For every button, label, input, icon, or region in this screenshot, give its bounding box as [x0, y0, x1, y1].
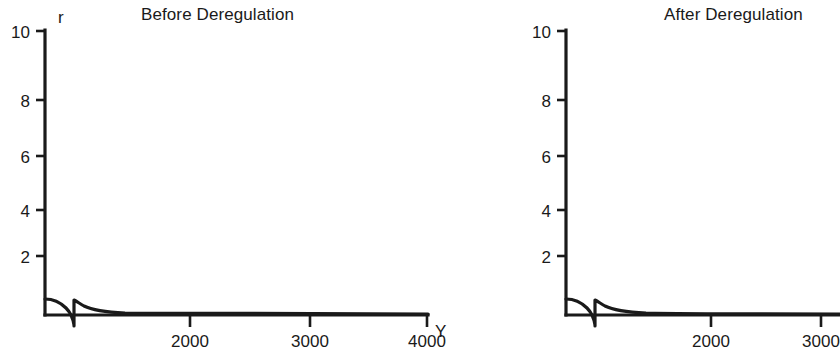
y-tick-label-8-after: 8	[542, 92, 551, 111]
y-tick-label-2-after: 2	[542, 248, 551, 267]
x-tick-label-3000-before: 3000	[291, 332, 329, 351]
chart-panel-after: After Deregulation 10 8 6 4 2 2000 3000	[470, 0, 840, 360]
y-tick-label-10-before: 10	[11, 23, 30, 42]
x-axis-label-Y: Y	[435, 322, 446, 342]
y-tick-label-8-before: 8	[21, 92, 30, 111]
y-tick-label-4-after: 4	[542, 202, 551, 221]
x-tick-label-3000-after: 3000	[802, 332, 840, 351]
x-tick-label-2000-before: 2000	[171, 332, 209, 351]
chart-panel-before: Before Deregulation 10 8 6 4 2 2000	[0, 0, 470, 360]
y-tick-label-2-before: 2	[21, 248, 30, 267]
y-tick-label-6-after: 6	[542, 148, 551, 167]
y-axis-label-r: r	[58, 8, 64, 28]
money-demand-curve-before	[45, 299, 428, 326]
y-tick-label-4-before: 4	[21, 202, 30, 221]
figure-canvas: Before Deregulation 10 8 6 4 2 2000	[0, 0, 840, 360]
plot-area-before: 10 8 6 4 2 2000 3000 4000	[0, 0, 470, 360]
y-tick-label-6-before: 6	[21, 148, 30, 167]
x-tick-label-2000-after: 2000	[692, 332, 730, 351]
money-demand-curve-after	[566, 299, 840, 326]
y-tick-label-10-after: 10	[532, 23, 551, 42]
plot-area-after: 10 8 6 4 2 2000 3000	[470, 0, 840, 360]
